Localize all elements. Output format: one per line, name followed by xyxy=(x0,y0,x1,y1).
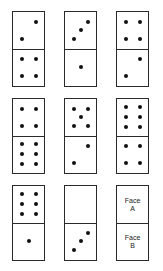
pip-dot-icon xyxy=(86,20,90,24)
domino-face-bottom xyxy=(117,49,148,86)
pip-dot-icon xyxy=(34,20,38,24)
domino-face-top xyxy=(65,12,96,49)
domino-1 xyxy=(12,11,45,87)
domino-face-bottom xyxy=(13,223,44,260)
pip-dot-icon xyxy=(34,107,38,111)
pip-dot-icon xyxy=(124,115,128,119)
pip-dot-icon xyxy=(72,37,76,41)
face-a: Face A xyxy=(117,186,148,223)
pip-dot-icon xyxy=(20,37,24,41)
domino-face-bottom xyxy=(117,136,148,173)
pip-dot-icon xyxy=(124,161,128,165)
domino-face-bottom xyxy=(65,49,96,86)
pip-dot-icon xyxy=(27,239,31,243)
pip-dot-icon xyxy=(72,161,76,165)
pip-dot-icon xyxy=(138,57,142,61)
domino-4 xyxy=(12,98,45,174)
pip-dot-icon xyxy=(20,192,24,196)
pip-dot-icon xyxy=(20,124,24,128)
pip-dot-icon xyxy=(86,124,90,128)
domino-face-bottom xyxy=(13,136,44,173)
face-a-label-letter: A xyxy=(130,205,135,213)
face-a-label-word: Face xyxy=(125,197,141,205)
pip-dot-icon xyxy=(20,162,24,166)
pip-dot-icon xyxy=(34,212,38,216)
pip-dot-icon xyxy=(79,28,83,32)
pip-dot-icon xyxy=(138,125,142,129)
pip-dot-icon xyxy=(86,231,90,235)
domino-face-top xyxy=(117,12,148,49)
domino-3 xyxy=(116,11,149,87)
pip-dot-icon xyxy=(34,192,38,196)
pip-dot-icon xyxy=(34,142,38,146)
face-b: Face B xyxy=(117,223,148,260)
domino-face-top xyxy=(65,99,96,136)
pip-dot-icon xyxy=(86,107,90,111)
pip-dot-icon xyxy=(79,239,83,243)
pip-dot-icon xyxy=(138,37,142,41)
pip-dot-icon xyxy=(138,144,142,148)
answer-domino: Face A Face B xyxy=(116,185,149,261)
pip-dot-icon xyxy=(34,162,38,166)
domino-face-bottom xyxy=(65,223,96,260)
pip-dot-icon xyxy=(124,125,128,129)
face-b-label-letter: B xyxy=(130,242,135,250)
domino-2 xyxy=(64,11,97,87)
domino-face-top xyxy=(13,12,44,49)
pip-dot-icon xyxy=(124,105,128,109)
domino-8 xyxy=(64,185,97,261)
pip-dot-icon xyxy=(86,144,90,148)
domino-5 xyxy=(64,98,97,174)
domino-face-top xyxy=(13,99,44,136)
pip-dot-icon xyxy=(72,124,76,128)
pip-dot-icon xyxy=(124,20,128,24)
pip-dot-icon xyxy=(20,107,24,111)
face-b-label-word: Face xyxy=(125,234,141,242)
pip-dot-icon xyxy=(124,144,128,148)
pip-dot-icon xyxy=(72,107,76,111)
pip-dot-icon xyxy=(124,74,128,78)
pip-dot-icon xyxy=(34,74,38,78)
pip-dot-icon xyxy=(124,37,128,41)
pip-dot-icon xyxy=(20,212,24,216)
domino-face-bottom xyxy=(65,136,96,173)
domino-face-top xyxy=(117,99,148,136)
domino-face-top xyxy=(13,186,44,223)
pip-dot-icon xyxy=(34,57,38,61)
pip-dot-icon xyxy=(34,202,38,206)
pip-dot-icon xyxy=(72,248,76,252)
pip-dot-icon xyxy=(138,115,142,119)
pip-dot-icon xyxy=(138,105,142,109)
pip-dot-icon xyxy=(20,74,24,78)
pip-dot-icon xyxy=(20,152,24,156)
domino-face-top xyxy=(65,186,96,223)
pip-dot-icon xyxy=(138,20,142,24)
domino-6 xyxy=(116,98,149,174)
pip-dot-icon xyxy=(20,142,24,146)
pip-dot-icon xyxy=(34,124,38,128)
domino-face-bottom xyxy=(13,49,44,86)
domino-7 xyxy=(12,185,45,261)
pip-dot-icon xyxy=(79,115,83,119)
pip-dot-icon xyxy=(138,161,142,165)
pip-dot-icon xyxy=(34,152,38,156)
pip-dot-icon xyxy=(20,57,24,61)
pip-dot-icon xyxy=(20,202,24,206)
pip-dot-icon xyxy=(79,65,83,69)
